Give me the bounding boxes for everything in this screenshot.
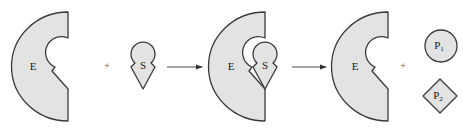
enzyme-reaction-diagram: E + S E S E + P1 P2: [0, 0, 463, 131]
plus-operator-1: +: [104, 60, 110, 71]
enzyme-reactant: E: [12, 12, 68, 121]
enzyme-label: E: [30, 60, 37, 72]
substrate-label: S: [262, 59, 268, 71]
enzyme-shape: [332, 12, 388, 121]
enzyme-shape: [12, 12, 68, 121]
enzyme-product: E: [332, 12, 388, 121]
plus-operator-2: +: [400, 60, 406, 71]
product-p1: P1: [425, 30, 457, 62]
substrate-label: S: [140, 59, 146, 71]
substrate-reactant: S: [131, 42, 155, 89]
enzyme-label: E: [352, 60, 359, 72]
enzyme-substrate-complex: E S: [209, 12, 277, 121]
enzyme-label: E: [228, 60, 235, 72]
product-p2: P2: [423, 79, 457, 113]
